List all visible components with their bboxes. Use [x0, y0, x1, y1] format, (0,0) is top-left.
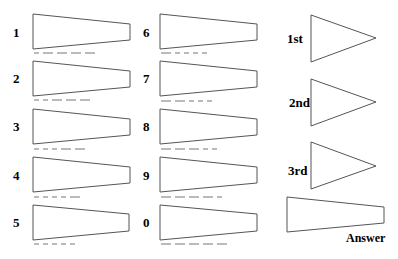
digit-0-group: 0	[143, 205, 257, 244]
digit-label: 2	[13, 71, 20, 86]
digit-6-group: 6	[143, 14, 257, 53]
trapezoid-shape	[33, 157, 130, 192]
digit-label: 5	[13, 215, 20, 230]
trapezoid-shape	[33, 61, 130, 96]
digit-3-group: 3	[13, 109, 130, 149]
ordinal-1st-group: 1st	[287, 15, 376, 62]
trapezoid-shape	[160, 61, 257, 96]
triangle-shape	[311, 15, 376, 62]
triangle-shape	[311, 79, 376, 126]
digit-5-group: 5	[13, 205, 129, 244]
trapezoid-shape	[160, 157, 257, 192]
ordinal-3rd-group: 3rd	[288, 142, 376, 189]
trapezoid-shape	[33, 205, 129, 240]
digit-2-group: 2	[13, 61, 130, 100]
digit-7-group: 7	[143, 61, 257, 101]
diagram-canvas: 1 2 3 4 5 6 7 8 9	[0, 0, 398, 259]
trapezoid-shape	[160, 109, 257, 144]
answer-trapezoid-shape	[287, 197, 384, 232]
digit-label: 7	[143, 71, 150, 86]
trapezoid-shape	[33, 14, 130, 49]
trapezoid-shape	[160, 205, 257, 240]
digit-label: 1	[13, 25, 20, 40]
trapezoid-shape	[33, 109, 130, 144]
ordinal-label: 1st	[287, 31, 304, 46]
digit-label: 6	[143, 25, 150, 40]
digit-label: 3	[13, 119, 20, 134]
digit-label: 9	[143, 168, 150, 183]
ordinal-label: 3rd	[288, 163, 308, 178]
answer-group: Answer	[287, 197, 386, 245]
digit-8-group: 8	[143, 109, 257, 149]
digit-label: 8	[143, 119, 150, 134]
digit-label: 0	[143, 215, 150, 230]
ordinal-label: 2nd	[289, 95, 311, 110]
digit-1-group: 1	[13, 14, 130, 53]
answer-label: Answer	[346, 231, 386, 245]
digit-9-group: 9	[143, 157, 257, 197]
digit-4-group: 4	[13, 157, 130, 197]
digit-label: 4	[13, 168, 20, 183]
triangle-shape	[311, 142, 376, 189]
trapezoid-shape	[160, 14, 257, 49]
ordinal-2nd-group: 2nd	[289, 79, 376, 126]
